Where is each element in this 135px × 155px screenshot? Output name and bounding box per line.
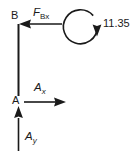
force-bx-subscript: Bx: [40, 12, 49, 21]
label-point-a: A: [12, 95, 19, 106]
moment-arrowhead: [93, 24, 102, 36]
reaction-ay-symbol: A: [25, 130, 33, 142]
reaction-ay-subscript: y: [33, 136, 37, 145]
label-reaction-ay: Ay: [25, 131, 37, 143]
reaction-ax-arrowhead: [54, 98, 66, 107]
label-point-b: B: [11, 10, 18, 21]
label-moment-value: 11.35: [103, 18, 130, 29]
moment-arc: [63, 10, 97, 44]
free-body-diagram: B FBx 11.35 A Ax Ay: [0, 0, 135, 155]
label-force-bx: FBx: [33, 7, 49, 19]
force-bx-symbol: F: [33, 6, 40, 18]
reaction-ay-arrowhead: [14, 106, 23, 118]
reaction-ax-subscript: x: [42, 87, 46, 96]
reaction-ax-symbol: A: [34, 81, 42, 93]
force-bx-arrowhead: [19, 20, 31, 29]
label-reaction-ax: Ax: [34, 82, 46, 94]
